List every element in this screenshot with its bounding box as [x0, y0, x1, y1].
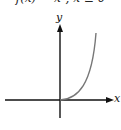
function-curve	[60, 33, 96, 100]
y-axis-arrow-icon	[57, 24, 63, 32]
x-axis-label: x	[114, 92, 120, 105]
y-axis-label: y	[56, 11, 62, 24]
x-axis-arrow-icon	[106, 97, 114, 103]
